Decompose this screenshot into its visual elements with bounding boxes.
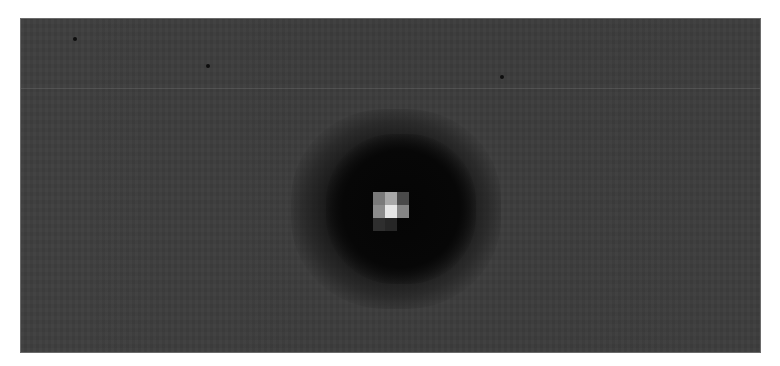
star-pixel xyxy=(373,205,385,218)
dark-spot xyxy=(206,64,210,68)
image-frame xyxy=(21,19,760,352)
star-pixel xyxy=(385,218,397,231)
dark-spot xyxy=(500,75,504,79)
star-pixel xyxy=(397,205,409,218)
star-pixel xyxy=(373,192,385,205)
star-pixel xyxy=(373,218,385,231)
dark-spot xyxy=(73,37,77,41)
star-pixel xyxy=(385,205,397,218)
star-pixel xyxy=(397,192,409,205)
horizontal-streak xyxy=(21,88,760,89)
star-pixel xyxy=(385,192,397,205)
